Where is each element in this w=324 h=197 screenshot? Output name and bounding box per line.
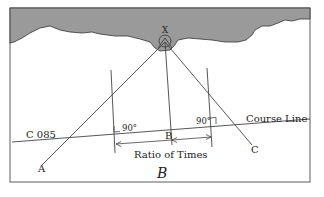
angle-left-label: 90° xyxy=(122,123,137,133)
point-a-label: A xyxy=(37,163,46,174)
angle-right-label: 90° xyxy=(196,116,211,126)
course-line-label: Course Line xyxy=(246,113,307,124)
ratio-label: Ratio of Times xyxy=(134,149,207,160)
caption: B xyxy=(156,165,167,181)
bearing-diagram: X C 085 Course Line 90° 90° B A C Ratio … xyxy=(0,0,324,197)
point-c-label: C xyxy=(251,144,259,155)
course-label: C 085 xyxy=(26,129,56,140)
object-label: X xyxy=(162,25,169,35)
point-b-label: B xyxy=(165,130,172,141)
